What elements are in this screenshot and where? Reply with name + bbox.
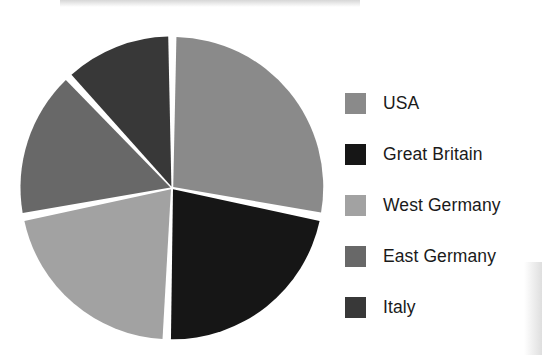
pie-chart-svg: [0, 0, 350, 355]
legend-item-west-germany[interactable]: West Germany: [345, 180, 541, 231]
legend-label: East Germany: [383, 248, 496, 266]
chart-legend: USA Great Britain West Germany East Germ…: [345, 78, 541, 333]
legend-item-usa[interactable]: USA: [345, 78, 541, 129]
legend-item-italy[interactable]: Italy: [345, 282, 541, 333]
chart-page: USA Great Britain West Germany East Germ…: [0, 0, 542, 355]
legend-label: West Germany: [383, 197, 501, 215]
legend-label: Italy: [383, 299, 416, 317]
pie-slice[interactable]: [173, 37, 323, 212]
legend-swatch-icon: [345, 246, 366, 267]
pie-slice[interactable]: [24, 189, 171, 339]
pie-chart: [0, 0, 350, 355]
legend-label: USA: [383, 95, 419, 113]
legend-swatch-icon: [345, 297, 366, 318]
legend-swatch-icon: [345, 93, 366, 114]
pie-slice[interactable]: [171, 189, 320, 339]
pie-slice-group: [20, 37, 323, 340]
legend-label: Great Britain: [383, 146, 483, 164]
legend-swatch-icon: [345, 195, 366, 216]
legend-swatch-icon: [345, 144, 366, 165]
legend-item-east-germany[interactable]: East Germany: [345, 231, 541, 282]
legend-item-great-britain[interactable]: Great Britain: [345, 129, 541, 180]
